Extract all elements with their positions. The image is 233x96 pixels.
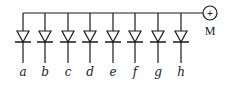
diode-array-diagram: abcdefgh + M xyxy=(0,0,233,96)
diode-label: e xyxy=(109,65,116,79)
diode-label: d xyxy=(86,65,94,79)
diode-d: d xyxy=(82,13,98,79)
diode-group: abcdefgh xyxy=(15,13,189,79)
terminal-m: + M xyxy=(203,6,217,38)
diode-icon xyxy=(84,31,96,42)
diode-icon xyxy=(175,31,187,42)
diode-e: e xyxy=(105,13,121,79)
diode-label: a xyxy=(19,65,26,79)
diode-a: a xyxy=(15,13,31,79)
diode-b: b xyxy=(37,13,53,79)
diode-icon xyxy=(152,31,164,42)
diode-label: f xyxy=(132,65,140,79)
diode-icon xyxy=(129,31,141,42)
diode-icon xyxy=(107,31,119,42)
diode-label: h xyxy=(177,65,185,79)
diode-label: c xyxy=(65,65,72,79)
plus-sign: + xyxy=(207,8,213,19)
diode-g: g xyxy=(150,13,166,79)
diode-c: c xyxy=(60,13,76,79)
diode-f: f xyxy=(127,13,143,79)
diode-label: g xyxy=(154,65,162,79)
diode-icon xyxy=(62,31,74,42)
diode-h: h xyxy=(173,13,189,79)
terminal-label: M xyxy=(205,24,216,38)
diode-icon xyxy=(17,31,29,42)
diode-label: b xyxy=(41,65,49,79)
diode-icon xyxy=(39,31,51,42)
